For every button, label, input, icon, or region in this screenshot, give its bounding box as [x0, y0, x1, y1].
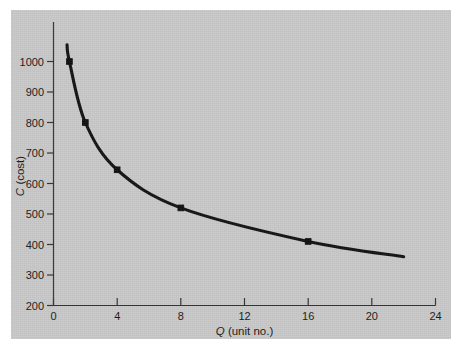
x-tick-labels: 0 4 8 12 16 20 24: [50, 310, 441, 322]
x-axis-title: Q (unit no.): [216, 325, 274, 337]
y-tick-label: 800: [26, 117, 44, 129]
data-point-marker: [178, 205, 184, 211]
y-tick-marks: [47, 62, 54, 306]
x-tick-label: 0: [50, 310, 56, 322]
y-tick-label: 400: [26, 239, 44, 251]
y-tick-label: 500: [26, 208, 44, 220]
figure-container: 200 300 400 500 600 700 800 900 1000: [0, 0, 462, 353]
y-tick-label: 200: [26, 300, 44, 312]
line-chart: 200 300 400 500 600 700 800 900 1000: [11, 10, 451, 339]
data-point-marker: [305, 239, 311, 245]
data-point-marker: [83, 120, 89, 126]
x-axis-title-symbol: Q: [216, 325, 225, 337]
x-tick-label: 24: [429, 310, 441, 322]
x-tick-label: 8: [178, 310, 184, 322]
y-tick-label: 300: [26, 269, 44, 281]
y-tick-label: 1000: [20, 56, 44, 68]
data-markers: [67, 59, 311, 245]
y-axis-title: C (cost): [14, 156, 26, 196]
x-tick-label: 20: [366, 310, 378, 322]
plot-panel: 200 300 400 500 600 700 800 900 1000: [11, 10, 451, 339]
y-axis-title-rest: (cost): [14, 156, 26, 188]
y-tick-label: 700: [26, 147, 44, 159]
y-tick-label: 900: [26, 86, 44, 98]
x-tick-label: 16: [302, 310, 314, 322]
data-curve: [67, 45, 404, 257]
x-tick-marks: [54, 298, 436, 306]
data-point-marker: [67, 59, 73, 65]
x-tick-label: 12: [238, 310, 250, 322]
data-point-marker: [114, 167, 120, 173]
y-tick-label: 600: [26, 178, 44, 190]
x-tick-label: 4: [114, 310, 120, 322]
x-axis-title-rest: (unit no.): [225, 325, 274, 337]
